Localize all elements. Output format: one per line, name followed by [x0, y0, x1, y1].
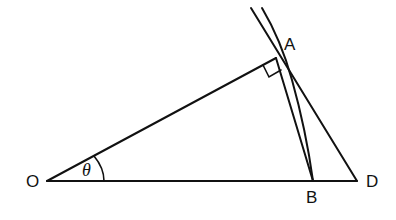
label-D: D — [366, 172, 378, 192]
geometry-diagram: O A B D θ — [0, 0, 396, 220]
label-O: O — [26, 172, 39, 192]
label-B: B — [306, 188, 317, 208]
tangent-line-AD — [251, 8, 357, 181]
chord-AB — [276, 58, 313, 181]
label-theta: θ — [82, 160, 91, 181]
label-A: A — [284, 35, 295, 55]
diagram-canvas — [0, 0, 396, 220]
angle-arc-theta — [94, 156, 104, 181]
